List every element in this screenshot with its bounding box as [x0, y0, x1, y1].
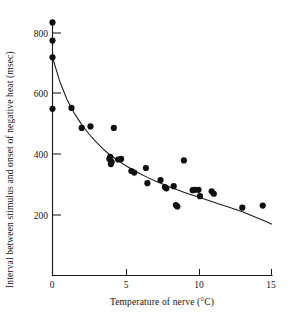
data-point	[49, 54, 55, 60]
chart-figure: Interval between stimulus and onset of n…	[0, 0, 292, 317]
data-point	[118, 156, 124, 162]
data-point	[174, 203, 180, 209]
y-tick-label-800: 800	[34, 29, 49, 39]
x-tick-label-5: 5	[124, 280, 129, 290]
data-point	[171, 183, 177, 189]
x-tick-label-15: 15	[266, 280, 276, 290]
data-point	[197, 193, 203, 199]
y-axis-tick-labels: 800 600 400 200	[34, 29, 49, 221]
data-point	[163, 185, 169, 191]
x-axis-tick-labels: 0 5 10 15	[50, 280, 276, 290]
x-axis-title: Temperature of nerve (°C)	[110, 297, 214, 308]
data-point	[260, 203, 266, 209]
data-point	[49, 37, 55, 43]
y-tick-label-600: 600	[34, 89, 49, 99]
data-point	[239, 205, 245, 211]
data-point	[181, 157, 187, 163]
data-point	[195, 187, 201, 193]
data-point	[111, 125, 117, 131]
x-tick-label-0: 0	[50, 280, 55, 290]
data-point	[211, 191, 217, 197]
chart-canvas: Interval between stimulus and onset of n…	[0, 0, 292, 317]
data-point	[87, 123, 93, 129]
x-tick-label-10: 10	[194, 280, 204, 290]
data-point	[131, 169, 137, 175]
data-point	[157, 177, 163, 183]
data-point	[79, 125, 85, 131]
data-point	[49, 19, 55, 25]
data-point	[49, 106, 55, 112]
data-point	[144, 180, 150, 186]
x-axis-ticks	[127, 269, 272, 276]
data-point	[68, 105, 74, 111]
data-point	[143, 165, 149, 171]
fit-curve	[53, 57, 272, 224]
y-axis-title: Interval between stimulus and onset of n…	[5, 51, 16, 288]
data-point	[109, 159, 115, 165]
y-tick-label-200: 200	[34, 211, 49, 221]
y-tick-label-400: 400	[34, 150, 49, 160]
